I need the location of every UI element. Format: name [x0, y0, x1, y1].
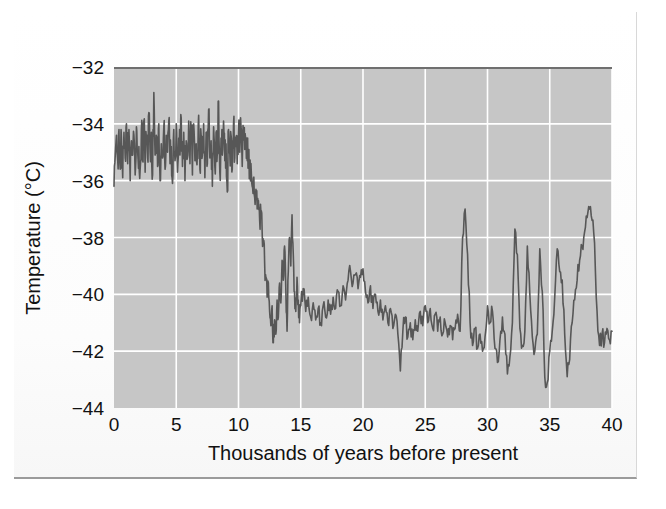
y-tick-label: −32 [72, 57, 104, 78]
chart-root: 0510152025303540 −44−42−40−38−36−34−32 T… [0, 0, 666, 509]
x-axis-title: Thousands of years before present [208, 442, 519, 464]
y-tick-label: −40 [72, 284, 104, 305]
x-tick-label: 15 [290, 414, 311, 435]
y-tick-label: −36 [72, 171, 104, 192]
y-axis-tick-labels: −44−42−40−38−36−34−32 [72, 57, 105, 419]
y-tick-label: −38 [72, 228, 104, 249]
x-tick-label: 35 [539, 414, 560, 435]
y-tick-label: −34 [72, 114, 105, 135]
x-tick-label: 20 [352, 414, 373, 435]
y-tick-label: −44 [72, 398, 105, 419]
x-tick-label: 25 [415, 414, 436, 435]
x-tick-label: 5 [171, 414, 182, 435]
x-tick-label: 10 [228, 414, 249, 435]
x-tick-label: 0 [109, 414, 120, 435]
temperature-line-chart: 0510152025303540 −44−42−40−38−36−34−32 T… [0, 0, 666, 509]
y-tick-label: −42 [72, 341, 104, 362]
x-tick-label: 30 [477, 414, 498, 435]
x-axis-tick-labels: 0510152025303540 [109, 414, 623, 435]
x-tick-label: 40 [601, 414, 622, 435]
y-axis-title: Temperature (°C) [22, 161, 44, 315]
